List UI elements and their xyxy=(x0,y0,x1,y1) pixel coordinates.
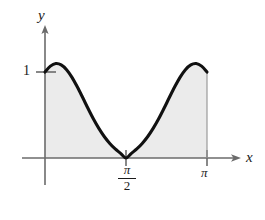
x-axis-label: x xyxy=(246,150,253,165)
x-tick-label-pi: π xyxy=(201,166,208,179)
y-axis-label: y xyxy=(38,8,45,23)
fraction-numerator: π xyxy=(118,163,136,177)
figure-container: y x 1 π 2 π xyxy=(0,0,265,220)
shaded-region xyxy=(45,64,207,158)
fraction-denominator: 2 xyxy=(118,179,136,194)
x-tick-label-pi-over-two: π 2 xyxy=(118,163,136,194)
y-tick-label-one: 1 xyxy=(23,64,30,78)
